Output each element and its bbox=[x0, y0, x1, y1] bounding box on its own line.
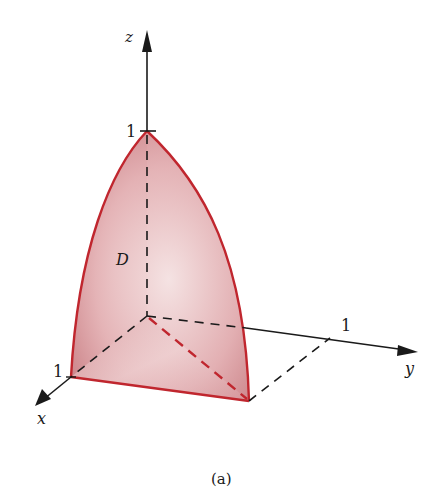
diagram-canvas: z 1 D 1 x 1 y (a) bbox=[0, 0, 447, 492]
figure-caption: (a) bbox=[211, 470, 232, 488]
y-projection-dashed bbox=[249, 338, 330, 401]
y-axis-label: y bbox=[404, 359, 415, 378]
region-label: D bbox=[115, 250, 129, 269]
y-tick-label: 1 bbox=[341, 316, 351, 335]
x-axis-arrowhead-icon bbox=[35, 389, 51, 406]
y-axis-arrowhead-icon bbox=[397, 345, 418, 356]
x-axis-label: x bbox=[37, 409, 46, 428]
z-axis-arrowhead-icon bbox=[142, 30, 152, 52]
z-axis-label: z bbox=[124, 28, 133, 46]
z-tick-label: 1 bbox=[126, 122, 136, 141]
x-tick-label: 1 bbox=[53, 362, 63, 381]
y-axis bbox=[246, 328, 406, 350]
